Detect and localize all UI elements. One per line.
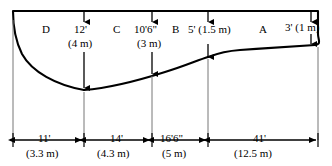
station-label-c: C <box>113 24 120 35</box>
length-metric-2: (5 m) <box>162 148 186 159</box>
length-imperial-2: 16'6" <box>160 133 183 144</box>
length-metric-3: (12.5 m) <box>234 148 272 159</box>
keel-curve-forward <box>84 57 208 90</box>
length-metric-0: (3.3 m) <box>26 148 58 159</box>
depth-metric-c: (3 m) <box>137 38 161 49</box>
station-label-a: A <box>259 24 267 35</box>
depth-metric-d: (4 m) <box>68 38 92 49</box>
length-imperial-3: 41' <box>253 133 266 144</box>
hull-profile-diagram: D C B A 12' (4 m) 10'6" (3 m) 5' (1.5 m)… <box>0 0 332 166</box>
depth-callout-b: 5' (1.5 m) <box>188 24 231 35</box>
depth-callout-a: 3' (1 m) <box>285 22 319 33</box>
depth-imperial-d: 12' <box>74 24 87 35</box>
length-metric-1: (4.3 m) <box>97 148 129 159</box>
station-label-d: D <box>42 24 50 35</box>
length-imperial-0: 11' <box>38 133 51 144</box>
length-imperial-1: 14' <box>110 133 123 144</box>
depth-imperial-c: 10'6" <box>134 24 157 35</box>
station-label-b: B <box>172 24 179 35</box>
keel-curve-aft <box>208 45 315 57</box>
